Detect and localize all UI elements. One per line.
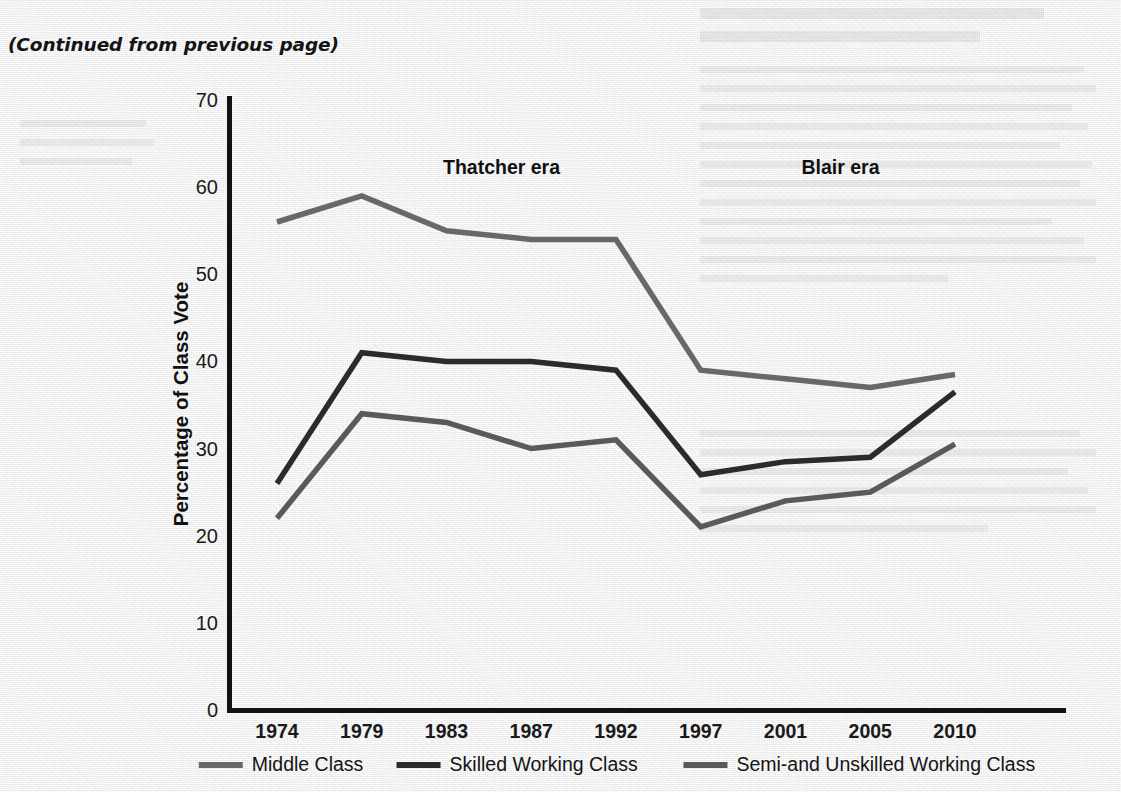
y-tick-label-50: 50 <box>196 263 218 285</box>
era-annotation-0: Thatcher era <box>443 156 560 178</box>
x-tick-label-2005: 2005 <box>849 720 893 742</box>
chart-era-annotations: Thatcher eraBlair era <box>443 156 880 178</box>
x-tick-label-1983: 1983 <box>425 720 469 742</box>
x-tick-label-1992: 1992 <box>594 720 638 742</box>
y-tick-label-20: 20 <box>196 525 218 547</box>
x-tick-label-1974: 1974 <box>255 720 299 742</box>
y-tick-label-10: 10 <box>196 612 218 634</box>
y-axis-tick-labels: 010203040506070 <box>196 89 218 721</box>
series-line-0 <box>277 196 955 388</box>
legend-label-2: Semi-and Unskilled Working Class <box>736 753 1035 775</box>
y-tick-label-60: 60 <box>196 176 218 198</box>
x-tick-label-1997: 1997 <box>679 720 722 742</box>
x-tick-label-1987: 1987 <box>510 720 553 742</box>
x-tick-label-1979: 1979 <box>340 720 384 742</box>
class-vote-line-chart: 010203040506070 Percentage of Class Vote… <box>0 0 1121 792</box>
x-tick-label-2001: 2001 <box>764 720 808 742</box>
era-annotation-1: Blair era <box>801 156 879 178</box>
chart-legend: Middle ClassSkilled Working ClassSemi-an… <box>199 753 1036 775</box>
chart-series-lines <box>277 196 955 527</box>
legend-label-0: Middle Class <box>252 753 364 775</box>
y-tick-label-0: 0 <box>207 699 218 721</box>
x-axis-tick-labels: 197419791983198719921997200120052010 <box>255 720 977 742</box>
y-tick-label-40: 40 <box>196 350 218 372</box>
series-line-2 <box>277 414 955 527</box>
y-axis-title: Percentage of Class Vote <box>169 282 192 527</box>
x-tick-label-2010: 2010 <box>933 720 977 742</box>
legend-label-1: Skilled Working Class <box>450 753 638 775</box>
y-tick-label-70: 70 <box>196 89 218 111</box>
y-tick-label-30: 30 <box>196 438 218 460</box>
